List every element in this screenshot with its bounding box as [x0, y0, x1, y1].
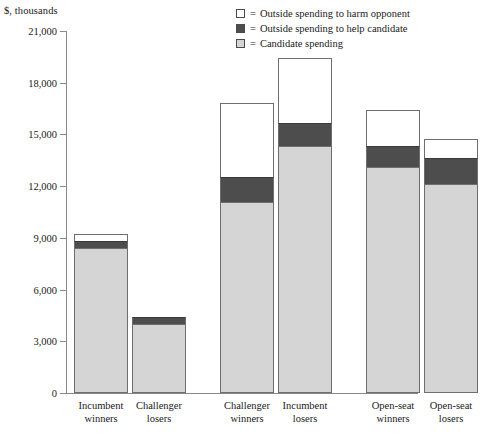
- y-tick-mark: [60, 393, 66, 394]
- bar-incumbent-winners: [74, 234, 128, 393]
- y-tick-label: 18,000: [28, 83, 57, 84]
- segment-outside-help: [278, 123, 332, 145]
- segment-candidate-spending: [424, 184, 478, 393]
- plot-area: 03,0006,0009,00012,00015,00018,00021,000…: [66, 31, 418, 394]
- x-axis-label-line: Incumbent: [68, 399, 134, 412]
- segment-candidate-spending: [278, 146, 332, 393]
- y-tick-label: 15,000: [28, 134, 57, 135]
- segment-candidate-spending: [366, 167, 420, 393]
- x-axis-label-line: losers: [418, 412, 482, 425]
- x-axis-label-line: Challenger: [214, 399, 280, 412]
- x-axis-label-incumbent-losers: Incumbentlosers: [272, 399, 338, 425]
- y-tick-label: 3,000: [33, 341, 57, 342]
- y-tick-mark: [60, 238, 66, 239]
- x-axis-label-line: winners: [360, 412, 426, 425]
- y-tick-label: 9,000: [33, 238, 57, 239]
- segment-outside-harm: [366, 110, 420, 146]
- legend-label-harm: Outside spending to harm opponent: [260, 8, 410, 19]
- segment-outside-harm: [424, 139, 478, 158]
- x-axis-label-line: Open-seat: [418, 399, 482, 412]
- y-tick-mark: [60, 341, 66, 342]
- segment-outside-help: [74, 241, 128, 248]
- x-axis-label-line: Incumbent: [272, 399, 338, 412]
- x-axis-label-open-seat-losers: Open-seatlosers: [418, 399, 482, 425]
- y-tick-mark: [60, 31, 66, 32]
- x-axis-line: [66, 393, 418, 394]
- x-axis-label-line: Open-seat: [360, 399, 426, 412]
- bar-challenger-winners: [220, 103, 274, 393]
- y-tick-label: 0: [52, 393, 57, 394]
- segment-outside-help: [220, 177, 274, 201]
- segment-outside-harm: [74, 234, 128, 241]
- segment-candidate-spending: [132, 324, 186, 393]
- segment-outside-help: [424, 158, 478, 185]
- white-swatch-icon: [236, 9, 245, 18]
- x-axis-label-line: winners: [214, 412, 280, 425]
- bar-challenger-losers: [132, 317, 186, 393]
- y-tick-label: 21,000: [28, 31, 57, 32]
- segment-outside-harm: [220, 103, 274, 178]
- y-axis-line: [66, 31, 67, 394]
- y-tick-mark: [60, 134, 66, 135]
- y-tick-label: 6,000: [33, 290, 57, 291]
- y-axis-title: $, thousands: [4, 5, 58, 16]
- bar-open-seat-winners: [366, 110, 420, 393]
- y-tick-mark: [60, 186, 66, 187]
- x-axis-label-challenger-losers: Challengerlosers: [126, 399, 192, 425]
- legend-item-harm: = Outside spending to harm opponent: [236, 6, 426, 20]
- x-axis-label-line: losers: [126, 412, 192, 425]
- segment-candidate-spending: [220, 202, 274, 393]
- y-tick-mark: [60, 83, 66, 84]
- x-axis-label-line: Challenger: [126, 399, 192, 412]
- segment-candidate-spending: [74, 248, 128, 393]
- x-axis-label-line: losers: [272, 412, 338, 425]
- x-axis-label-line: winners: [68, 412, 134, 425]
- x-axis-label-incumbent-winners: Incumbentwinners: [68, 399, 134, 425]
- segment-outside-help: [366, 146, 420, 168]
- x-axis-label-challenger-winners: Challengerwinners: [214, 399, 280, 425]
- legend-equals-sign: =: [250, 8, 256, 19]
- bar-incumbent-losers: [278, 58, 332, 393]
- x-axis-label-open-seat-winners: Open-seatwinners: [360, 399, 426, 425]
- y-tick-label: 12,000: [28, 186, 57, 187]
- bar-open-seat-losers: [424, 139, 478, 393]
- y-tick-mark: [60, 290, 66, 291]
- segment-outside-harm: [278, 58, 332, 124]
